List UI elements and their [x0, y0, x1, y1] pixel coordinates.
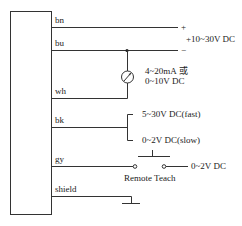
teach-voltage-label: 0~2V DC: [191, 161, 226, 171]
wire-bn: bn +: [52, 15, 186, 32]
wire-label-bn: bn: [55, 15, 65, 25]
analog-output-line1: 4~20mA 或: [145, 65, 188, 76]
switch-contact-left: [133, 165, 137, 169]
bk-slow-label: 0~2V DC(slow): [142, 135, 200, 145]
switch-contact-right: [162, 165, 166, 169]
wire-shield: shield: [52, 184, 140, 204]
wire-bu: bu −: [52, 38, 186, 55]
analog-output-branch: 4~20mA 或 0~10V DC: [122, 51, 188, 99]
analog-output-line2: 0~10V DC: [145, 76, 184, 86]
wire-label-bu: bu: [55, 38, 65, 48]
bk-bracket: [128, 115, 134, 141]
ground-icon: [122, 197, 140, 204]
switch-icon: [138, 150, 170, 157]
wire-label-wh: wh: [55, 86, 66, 96]
sensor-body: [11, 12, 52, 215]
terminal-plus: +: [181, 22, 186, 32]
remote-teach-label: Remote Teach: [124, 173, 176, 183]
bk-fast-label: 5~30V DC(fast): [142, 109, 200, 119]
wiring-diagram: bn + +10~30V DC bu − 4~20mA 或 0~10V DC w…: [0, 0, 242, 226]
wire-label-shield: shield: [55, 184, 77, 194]
wire-bk: bk 5~30V DC(fast) 0~2V DC(slow): [52, 109, 200, 145]
wire-label-gy: gy: [55, 154, 65, 164]
wire-label-bk: bk: [55, 115, 65, 125]
wire-wh: wh: [52, 86, 128, 99]
supply-label: +10~30V DC: [186, 34, 235, 44]
terminal-minus: −: [181, 45, 186, 55]
wire-gy: gy 0~2V DC Remote Teach: [52, 150, 226, 183]
